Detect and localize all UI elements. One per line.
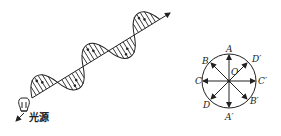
label-D-prime: D′	[251, 54, 261, 64]
label-B: B	[201, 56, 209, 66]
light-wave	[23, 5, 170, 112]
label-C: C	[195, 76, 202, 86]
label-A-prime: A′	[224, 112, 234, 122]
label-D: D	[202, 100, 210, 110]
light-source-bulb-icon	[19, 98, 30, 111]
light-source-label: 光源	[28, 111, 49, 123]
label-B-prime: B′	[249, 96, 259, 106]
label-C-prime: C′	[258, 76, 267, 86]
label-O: O	[231, 67, 239, 77]
label-A: A	[225, 44, 233, 54]
source-arrow	[16, 113, 24, 121]
diagram-canvas: 光源 A A′ B B′ C C′ D D′ O	[0, 0, 281, 136]
